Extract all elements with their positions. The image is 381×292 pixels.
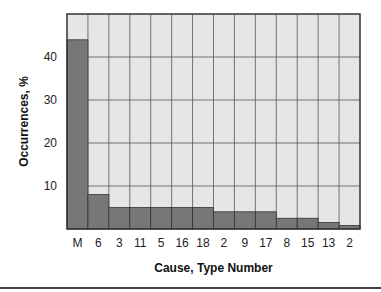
x-tick-label: 3 (116, 236, 123, 250)
bottom-rule (0, 287, 381, 289)
bar (234, 212, 255, 229)
pareto-chart: 10203040M6311516182917815132Cause, Type … (0, 0, 381, 292)
x-tick-label: 2 (221, 236, 228, 250)
x-tick-label: 13 (322, 236, 336, 250)
x-tick-label: 9 (242, 236, 249, 250)
x-tick-label: 17 (259, 236, 273, 250)
bar (172, 208, 193, 230)
y-tick-label: 10 (44, 179, 58, 193)
bar (151, 208, 172, 230)
bar (88, 195, 109, 229)
x-tick-label: M (72, 236, 82, 250)
y-tick-label: 30 (44, 93, 58, 107)
x-axis-label: Cause, Type Number (154, 261, 273, 275)
x-tick-label: 16 (175, 236, 189, 250)
x-tick-label: 15 (301, 236, 315, 250)
bar (109, 208, 130, 230)
x-tick-label: 2 (346, 236, 353, 250)
x-tick-label: 18 (196, 236, 210, 250)
bar (297, 218, 318, 229)
bar (318, 223, 339, 229)
bar (193, 208, 214, 230)
y-tick-label: 20 (44, 136, 58, 150)
x-tick-label: 6 (95, 236, 102, 250)
bar (214, 212, 235, 229)
bar (255, 212, 276, 229)
bar (67, 40, 88, 229)
bar (130, 208, 151, 230)
y-axis-label: Occurrences, % (17, 76, 31, 167)
y-tick-label: 40 (44, 50, 58, 64)
x-tick-label: 5 (158, 236, 165, 250)
bar (276, 218, 297, 229)
x-tick-label: 11 (134, 236, 147, 250)
x-tick-label: 8 (283, 236, 290, 250)
